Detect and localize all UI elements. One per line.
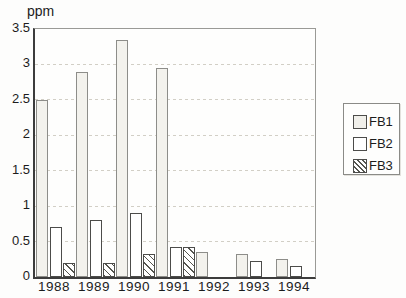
bar-fb1-1993 bbox=[236, 254, 248, 277]
y-tick-label-2: 2 bbox=[0, 127, 30, 141]
x-tick-label-1993: 1993 bbox=[238, 279, 270, 294]
bar-fb1-1990 bbox=[116, 40, 128, 277]
y-tick-label-1: 1 bbox=[0, 198, 30, 212]
legend-item-fb1: FB1 bbox=[353, 112, 399, 131]
legend-label-fb1: FB1 bbox=[369, 114, 393, 129]
x-tick-label-1988: 1988 bbox=[38, 279, 70, 294]
legend-box: FB1FB2FB3 bbox=[343, 103, 400, 175]
legend-label-fb3: FB3 bbox=[369, 158, 393, 173]
legend-swatch-fb2 bbox=[353, 137, 367, 151]
bar-fb2-1991 bbox=[170, 247, 182, 277]
legend-swatch-fb3 bbox=[353, 159, 367, 173]
bar-fb2-1994 bbox=[290, 266, 302, 277]
bar-fb1-1994 bbox=[276, 259, 288, 277]
bar-fb2-1993 bbox=[250, 261, 262, 277]
bar-fb2-1988 bbox=[50, 227, 62, 277]
bar-fb2-1989 bbox=[90, 220, 102, 277]
y-axis-title: ppm bbox=[27, 3, 54, 19]
legend-swatch-fb1 bbox=[353, 115, 367, 129]
legend-label-fb2: FB2 bbox=[369, 136, 393, 151]
bar-chart: ppm 00.511.522.533.5 1988198919901991199… bbox=[0, 0, 406, 298]
bar-fb1-1992 bbox=[196, 252, 208, 277]
y-tick-label-3.5: 3.5 bbox=[0, 21, 30, 35]
x-tick-label-1992: 1992 bbox=[198, 279, 230, 294]
x-tick-label-1991: 1991 bbox=[158, 279, 190, 294]
bar-fb1-1989 bbox=[76, 72, 88, 277]
y-tick-label-2.5: 2.5 bbox=[0, 92, 30, 106]
y-tick-label-3: 3 bbox=[0, 56, 30, 70]
y-tick-label-0: 0 bbox=[0, 269, 30, 283]
legend-item-fb3: FB3 bbox=[353, 156, 399, 175]
bar-fb3-1990 bbox=[143, 254, 155, 277]
legend-item-fb2: FB2 bbox=[353, 134, 399, 153]
gridline-3 bbox=[35, 64, 315, 65]
bar-fb2-1990 bbox=[130, 213, 142, 277]
y-tick-label-0.5: 0.5 bbox=[0, 234, 30, 248]
x-tick-label-1990: 1990 bbox=[118, 279, 150, 294]
x-tick-label-1989: 1989 bbox=[78, 279, 110, 294]
x-tick-label-1994: 1994 bbox=[278, 279, 310, 294]
bar-fb1-1988 bbox=[36, 100, 48, 277]
bar-fb3-1988 bbox=[63, 263, 75, 277]
bar-fb1-1991 bbox=[156, 68, 168, 277]
bar-fb3-1989 bbox=[103, 263, 115, 277]
plot-area bbox=[33, 28, 316, 279]
bar-fb3-1991 bbox=[183, 247, 195, 277]
y-tick-label-1.5: 1.5 bbox=[0, 163, 30, 177]
